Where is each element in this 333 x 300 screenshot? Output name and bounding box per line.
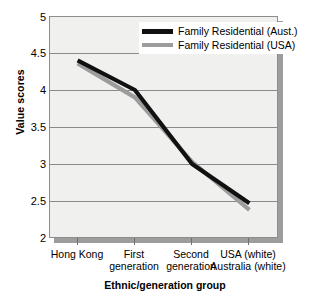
y-tick-label-4: 4 bbox=[6, 85, 46, 96]
chart-figure: Value scores 5 4.5 4 3.5 3 2.5 2 Hong Ko… bbox=[0, 0, 333, 300]
y-tick-label-2.5: 2.5 bbox=[6, 196, 46, 207]
y-tick-label-3: 3 bbox=[6, 159, 46, 170]
x-tick-mark-2 bbox=[134, 238, 135, 245]
y-tick-label-4.5: 4.5 bbox=[6, 48, 46, 59]
x-tick-label-line1: USA (white) bbox=[202, 249, 294, 261]
legend-swatch-usa-icon bbox=[142, 43, 173, 47]
y-tick-label-2: 2 bbox=[6, 233, 46, 244]
x-tick-label-usa-australia-white: USA (white) Australia (white) bbox=[202, 249, 294, 272]
x-tick-mark-4 bbox=[248, 238, 249, 245]
y-tick-label-5: 5 bbox=[6, 12, 46, 23]
x-tick-label-line2: Australia (white) bbox=[202, 261, 294, 273]
chart-legend: Family Residential (Aust.) Family Reside… bbox=[139, 22, 302, 54]
x-tick-mark-3 bbox=[191, 238, 192, 245]
y-tick-label-3.5: 3.5 bbox=[6, 122, 46, 133]
y-axis-title: Value scores bbox=[14, 52, 26, 152]
legend-item-aust: Family Residential (Aust.) bbox=[142, 25, 298, 37]
legend-label-usa: Family Residential (USA) bbox=[178, 40, 295, 51]
legend-label-aust: Family Residential (Aust.) bbox=[178, 26, 298, 37]
x-tick-mark-1 bbox=[77, 238, 78, 245]
legend-item-usa: Family Residential (USA) bbox=[142, 39, 298, 51]
x-axis-title: Ethnic/generation group bbox=[40, 279, 290, 291]
legend-swatch-aust-icon bbox=[142, 29, 173, 34]
